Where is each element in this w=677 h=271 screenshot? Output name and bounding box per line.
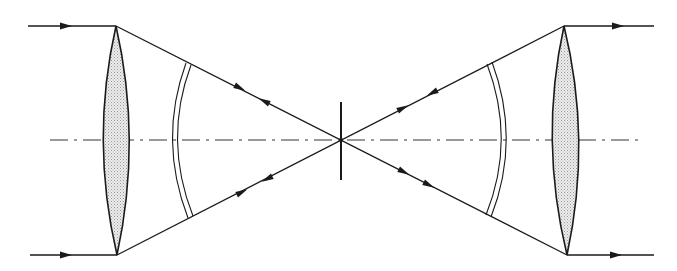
- focal-point: [339, 138, 343, 142]
- optical-diagram: [0, 0, 677, 271]
- arrow-icon: [257, 96, 270, 107]
- left-lens: [103, 26, 129, 255]
- arrow-icon: [60, 23, 72, 30]
- arrow-icon: [60, 252, 72, 259]
- arrow-icon: [396, 103, 409, 114]
- arrow-icon: [422, 180, 435, 191]
- right-lens: [552, 26, 579, 255]
- arrow-icon: [425, 88, 438, 99]
- arrow-icon: [260, 174, 273, 185]
- arrow-icon: [397, 167, 410, 178]
- arrow-icon: [612, 23, 624, 30]
- arrow-icon: [610, 252, 622, 259]
